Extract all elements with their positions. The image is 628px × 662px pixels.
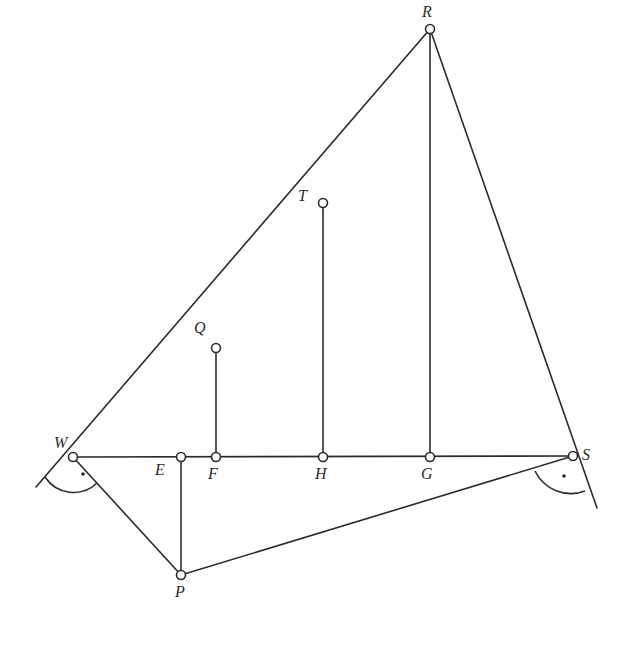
right-angle-arc-W bbox=[45, 477, 97, 492]
point-G bbox=[426, 453, 435, 462]
point-R bbox=[426, 25, 435, 34]
point-Q bbox=[212, 344, 221, 353]
line-R-S bbox=[430, 29, 597, 508]
label-W: W bbox=[54, 434, 69, 451]
label-F: F bbox=[207, 465, 218, 482]
label-S: S bbox=[582, 446, 590, 463]
point-F bbox=[212, 453, 221, 462]
point-P bbox=[177, 571, 186, 580]
segment-P-S bbox=[181, 456, 573, 575]
label-P: P bbox=[174, 583, 185, 600]
point-T bbox=[319, 199, 328, 208]
point-E bbox=[177, 453, 186, 462]
geometry-diagram: WEFHGSQTRP bbox=[0, 0, 628, 662]
right-angle-arc-S bbox=[535, 471, 585, 494]
label-R: R bbox=[421, 3, 432, 20]
point-W bbox=[69, 453, 78, 462]
label-T: T bbox=[298, 187, 308, 204]
right-angle-dot-S bbox=[562, 474, 566, 478]
segment-W-P bbox=[73, 457, 181, 575]
label-Q: Q bbox=[194, 319, 206, 336]
segments-group bbox=[36, 29, 597, 575]
right-angle-dot-W bbox=[81, 472, 85, 476]
label-E: E bbox=[154, 461, 165, 478]
label-G: G bbox=[421, 465, 433, 482]
point-H bbox=[319, 453, 328, 462]
line-W-R bbox=[36, 29, 430, 487]
labels-group: WEFHGSQTRP bbox=[54, 3, 590, 600]
label-H: H bbox=[314, 465, 328, 482]
point-S bbox=[569, 452, 578, 461]
